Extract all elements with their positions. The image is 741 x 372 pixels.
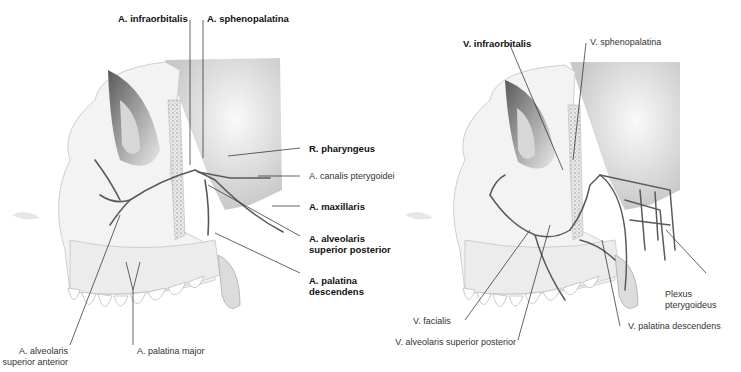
- label-a-alveolaris-superior-posterior-1: A. alveolaris: [309, 233, 365, 244]
- label-v-palatina-descendens: V. palatina descendens: [628, 321, 721, 332]
- label-a-palatina-major: A. palatina major: [137, 346, 205, 357]
- label-a-maxillaris: A. maxillaris: [309, 201, 365, 212]
- label-a-palatina-descendens-2: descendens: [309, 286, 364, 297]
- label-a-infraorbitalis: A. infraorbitalis: [118, 13, 188, 24]
- label-v-infraorbitalis: V. infraorbitalis: [463, 38, 531, 49]
- label-v-facialis: V. facialis: [413, 316, 451, 327]
- label-v-alveolaris-superior-posterior: V. alveolaris superior posterior: [370, 337, 516, 348]
- label-plexus-pterygoideus-2: pterygoideus: [665, 300, 717, 311]
- label-a-sphenopalatina: A. sphenopalatina: [207, 13, 289, 24]
- label-a-palatina-descendens-1: A. palatina: [309, 275, 357, 286]
- label-v-sphenopalatina: V. sphenopalatina: [590, 37, 661, 48]
- arteries-figure: A. infraorbitalis A. sphenopalatina R. p…: [0, 0, 370, 372]
- label-a-alveolaris-superior-anterior-1: A. alveolaris: [0, 346, 68, 357]
- veins-figure: V. infraorbitalis V. sphenopalatina Plex…: [370, 0, 741, 372]
- label-r-pharyngeus: R. pharyngeus: [309, 143, 375, 154]
- label-a-alveolaris-superior-anterior-2: superior anterior: [0, 357, 68, 368]
- skull-illustration-arteries: [0, 0, 370, 372]
- label-plexus-pterygoideus-1: Plexus: [665, 289, 692, 300]
